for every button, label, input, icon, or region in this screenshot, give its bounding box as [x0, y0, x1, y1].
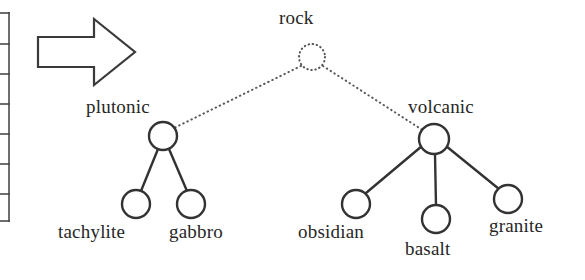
node-volcanic[interactable]	[419, 124, 449, 154]
cropped-table-edge	[0, 12, 10, 222]
edge-plutonic-tachylite	[141, 149, 158, 191]
node-granite[interactable]	[494, 185, 522, 213]
node-obsidian[interactable]	[342, 190, 370, 218]
root-edges	[174, 66, 424, 131]
edge-rock-plutonic	[174, 66, 301, 128]
node-label-plutonic: plutonic	[86, 97, 150, 116]
edge-volcanic-obsidian	[366, 146, 422, 193]
right-arrow-icon	[38, 19, 135, 85]
node-basalt[interactable]	[422, 205, 450, 233]
node-label-tachylite: tachylite	[58, 222, 125, 241]
node-label-obsidian: obsidian	[298, 222, 364, 241]
diagram-canvas: rock plutonic volcanic tachylite gabbro …	[0, 0, 585, 280]
node-label-gabbro: gabbro	[169, 222, 223, 241]
node-label-granite: granite	[489, 216, 543, 235]
node-tachylite[interactable]	[122, 190, 150, 218]
node-gabbro[interactable]	[177, 190, 205, 218]
node-label-basalt: basalt	[405, 239, 451, 258]
node-label-rock: rock	[279, 8, 314, 27]
node-label-volcanic: volcanic	[408, 97, 474, 116]
node-rock[interactable]	[299, 44, 325, 70]
node-plutonic[interactable]	[149, 122, 177, 150]
plutonic-edges	[141, 149, 187, 191]
edge-volcanic-basalt	[435, 154, 436, 206]
edge-volcanic-granite	[446, 146, 499, 189]
edge-plutonic-gabbro	[169, 149, 187, 191]
